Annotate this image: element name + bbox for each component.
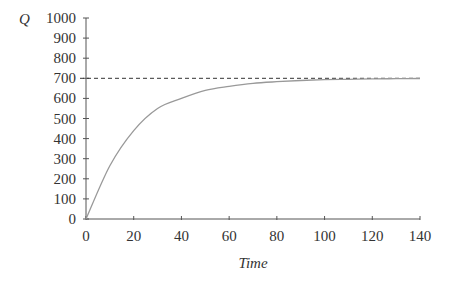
y-tick-label: 300 — [54, 151, 77, 167]
y-tick-label: 400 — [54, 131, 77, 147]
data-curve — [86, 79, 420, 219]
y-tick-label: 700 — [54, 70, 77, 86]
y-tick-label: 600 — [54, 90, 77, 106]
x-tick-label: 120 — [361, 228, 384, 244]
x-tick-label: 140 — [409, 228, 432, 244]
y-tick-label: 500 — [54, 111, 77, 127]
y-tick-label: 0 — [69, 211, 77, 227]
y-tick-label: 900 — [54, 30, 77, 46]
x-tick-label: 80 — [269, 228, 284, 244]
x-tick-label: 20 — [126, 228, 141, 244]
x-axis-title: Time — [238, 255, 268, 271]
x-tick-label: 100 — [313, 228, 336, 244]
y-tick-label: 800 — [54, 50, 77, 66]
x-tick-label: 0 — [82, 228, 90, 244]
x-tick-label: 60 — [222, 228, 237, 244]
x-tick-label: 40 — [174, 228, 189, 244]
y-tick-label: 1000 — [46, 10, 76, 26]
y-axis-title: Q — [19, 11, 30, 27]
y-axis: 01002003004005006007008009001000 — [46, 10, 89, 227]
chart: 01002003004005006007008009001000 0204060… — [0, 0, 449, 292]
y-tick-label: 100 — [54, 191, 77, 207]
y-tick-label: 200 — [54, 171, 77, 187]
x-axis: 020406080100120140 — [82, 216, 431, 244]
